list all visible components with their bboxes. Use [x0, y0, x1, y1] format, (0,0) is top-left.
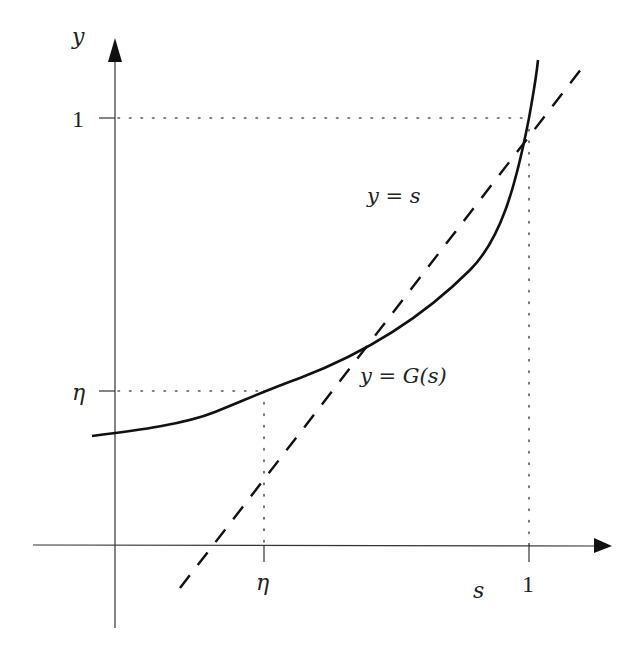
guide-lines: [118, 118, 529, 545]
identity-line-label: y = s: [366, 184, 421, 208]
identity-line: [180, 68, 582, 588]
y-tick-label-one: 1: [72, 106, 84, 132]
y-axis-arrow-icon: [108, 38, 122, 62]
y-tick-label-eta: η: [72, 380, 85, 405]
y-axis-label: y: [71, 24, 85, 49]
x-tick-label-eta: η: [256, 570, 269, 595]
x-axis: [33, 545, 598, 546]
generating-function-label: y = G(s): [359, 364, 447, 388]
x-axis-arrow-icon: [594, 538, 612, 553]
x-axis-label: s: [473, 578, 484, 603]
diagram-canvas: y s 1 η η 1 y = s y = G(s): [0, 0, 643, 653]
generating-function-curve: [92, 60, 538, 436]
axes: [33, 38, 612, 628]
x-tick-label-one: 1: [522, 571, 534, 597]
